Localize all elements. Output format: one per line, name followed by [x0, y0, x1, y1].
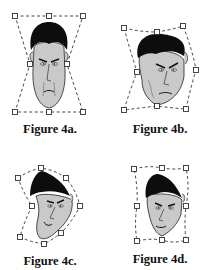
hair	[30, 171, 70, 196]
face-4a	[30, 22, 68, 108]
caption-figure-4c: Figure 4c.	[5, 254, 95, 269]
caption-figure-4b: Figure 4b.	[115, 122, 205, 137]
face-4c	[30, 171, 73, 239]
face-skin	[36, 194, 72, 238]
figure-4c	[16, 166, 83, 247]
ear-right	[65, 52, 68, 62]
face-4b	[137, 34, 187, 105]
caption-figure-4a: Figure 4a.	[5, 122, 95, 137]
ear-right	[184, 52, 188, 64]
figure-4a	[13, 14, 86, 115]
caption-figure-4d: Figure 4d.	[115, 252, 205, 267]
ear-left	[30, 52, 33, 62]
face-skin	[139, 51, 184, 105]
figure-4d	[132, 166, 189, 244]
face-skin	[33, 42, 65, 108]
figure-grid: Figure 4a. Figure 4b. Figure 4c. Figure …	[0, 0, 210, 270]
figure-4b	[122, 24, 199, 113]
face-skin	[147, 194, 182, 236]
face-4d	[146, 174, 185, 236]
